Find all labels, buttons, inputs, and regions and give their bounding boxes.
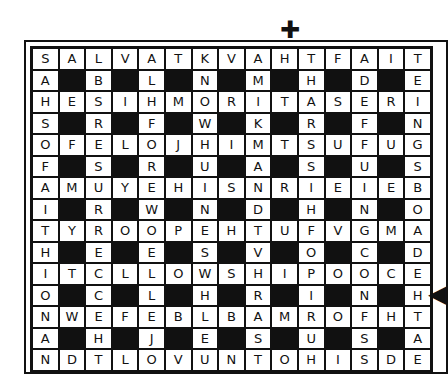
letter-cell[interactable]: E — [138, 177, 165, 199]
letter-cell[interactable]: S — [351, 328, 378, 350]
letter-cell[interactable]: R — [218, 91, 245, 113]
letter-cell[interactable]: A — [59, 48, 86, 70]
letter-cell[interactable]: W — [59, 306, 86, 328]
letter-cell[interactable]: V — [165, 349, 192, 371]
letter-cell[interactable]: C — [378, 263, 405, 285]
letter-cell[interactable]: T — [85, 349, 112, 371]
letter-cell[interactable]: E — [404, 70, 431, 92]
letter-cell[interactable]: H — [245, 263, 272, 285]
letter-cell[interactable]: F — [325, 48, 352, 70]
letter-cell[interactable]: O — [138, 220, 165, 242]
letter-cell[interactable]: T — [404, 306, 431, 328]
letter-cell[interactable]: U — [85, 177, 112, 199]
letter-cell[interactable]: E — [192, 220, 219, 242]
letter-cell[interactable]: E — [85, 242, 112, 264]
letter-cell[interactable]: H — [271, 48, 298, 70]
letter-cell[interactable]: U — [351, 156, 378, 178]
letter-cell[interactable]: O — [138, 349, 165, 371]
letter-cell[interactable]: F — [351, 134, 378, 156]
letter-cell[interactable]: I — [112, 91, 139, 113]
letter-cell[interactable]: S — [245, 328, 272, 350]
letter-cell[interactable]: V — [218, 48, 245, 70]
letter-cell[interactable]: A — [404, 328, 431, 350]
letter-cell[interactable]: W — [192, 113, 219, 135]
letter-cell[interactable]: R — [85, 113, 112, 135]
letter-cell[interactable]: U — [378, 134, 405, 156]
letter-cell[interactable]: T — [59, 263, 86, 285]
letter-cell[interactable]: M — [245, 134, 272, 156]
letter-cell[interactable]: N — [351, 285, 378, 307]
letter-cell[interactable]: F — [59, 134, 86, 156]
letter-cell[interactable]: R — [85, 220, 112, 242]
letter-cell[interactable]: R — [298, 306, 325, 328]
letter-cell[interactable]: S — [298, 134, 325, 156]
letter-cell[interactable]: A — [32, 70, 59, 92]
letter-cell[interactable]: L — [138, 263, 165, 285]
letter-cell[interactable]: E — [404, 263, 431, 285]
letter-cell[interactable]: W — [138, 199, 165, 221]
letter-cell[interactable]: D — [351, 70, 378, 92]
letter-cell[interactable]: L — [112, 349, 139, 371]
letter-cell[interactable]: F — [351, 306, 378, 328]
letter-cell[interactable]: K — [192, 48, 219, 70]
letter-cell[interactable]: H — [138, 91, 165, 113]
letter-cell[interactable]: A — [32, 177, 59, 199]
letter-cell[interactable]: O — [404, 199, 431, 221]
letter-cell[interactable]: B — [404, 177, 431, 199]
letter-cell[interactable]: U — [271, 220, 298, 242]
letter-cell[interactable]: J — [138, 328, 165, 350]
letter-cell[interactable]: D — [404, 242, 431, 264]
letter-cell[interactable]: U — [298, 328, 325, 350]
letter-cell[interactable]: E — [138, 242, 165, 264]
letter-cell[interactable]: T — [404, 48, 431, 70]
letter-cell[interactable]: P — [298, 263, 325, 285]
letter-cell[interactable]: Y — [59, 220, 86, 242]
letter-cell[interactable]: M — [59, 177, 86, 199]
letter-cell[interactable]: H — [192, 134, 219, 156]
letter-cell[interactable]: O — [32, 134, 59, 156]
letter-cell[interactable]: H — [298, 349, 325, 371]
letter-cell[interactable]: N — [245, 177, 272, 199]
letter-cell[interactable]: O — [298, 242, 325, 264]
letter-cell[interactable]: H — [404, 285, 431, 307]
letter-cell[interactable]: V — [245, 242, 272, 264]
letter-cell[interactable]: C — [85, 263, 112, 285]
letter-cell[interactable]: M — [271, 306, 298, 328]
letter-cell[interactable]: E — [85, 306, 112, 328]
letter-cell[interactable]: S — [85, 156, 112, 178]
letter-cell[interactable]: O — [325, 306, 352, 328]
letter-cell[interactable]: H — [378, 306, 405, 328]
letter-cell[interactable]: I — [218, 134, 245, 156]
letter-cell[interactable]: R — [245, 285, 272, 307]
letter-cell[interactable]: T — [245, 349, 272, 371]
letter-cell[interactable]: B — [165, 306, 192, 328]
letter-cell[interactable]: L — [85, 48, 112, 70]
letter-cell[interactable]: V — [325, 220, 352, 242]
letter-cell[interactable]: I — [325, 349, 352, 371]
letter-cell[interactable]: A — [245, 306, 272, 328]
letter-cell[interactable]: G — [351, 220, 378, 242]
letter-cell[interactable]: H — [298, 199, 325, 221]
letter-cell[interactable]: O — [351, 263, 378, 285]
letter-cell[interactable]: L — [112, 134, 139, 156]
letter-cell[interactable]: E — [325, 177, 352, 199]
letter-cell[interactable]: R — [85, 199, 112, 221]
letter-cell[interactable]: L — [112, 263, 139, 285]
letter-cell[interactable]: Y — [112, 177, 139, 199]
letter-cell[interactable]: S — [298, 156, 325, 178]
letter-cell[interactable]: O — [32, 285, 59, 307]
letter-cell[interactable]: F — [138, 113, 165, 135]
letter-cell[interactable]: R — [378, 91, 405, 113]
letter-cell[interactable]: O — [112, 220, 139, 242]
letter-cell[interactable]: F — [351, 113, 378, 135]
letter-cell[interactable]: A — [351, 48, 378, 70]
letter-cell[interactable]: H — [32, 91, 59, 113]
letter-cell[interactable]: S — [351, 349, 378, 371]
letter-cell[interactable]: A — [245, 48, 272, 70]
letter-cell[interactable]: E — [85, 134, 112, 156]
letter-cell[interactable]: I — [32, 263, 59, 285]
letter-cell[interactable]: L — [138, 70, 165, 92]
letter-cell[interactable]: U — [325, 134, 352, 156]
letter-cell[interactable]: D — [245, 199, 272, 221]
letter-cell[interactable]: O — [165, 263, 192, 285]
